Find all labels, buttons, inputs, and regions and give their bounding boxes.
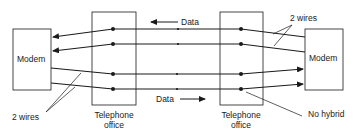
left-office-label: Telephone office bbox=[90, 110, 138, 130]
left-modem-label: Modem bbox=[17, 54, 45, 64]
right-modem-label: Modem bbox=[309, 53, 337, 63]
wire-upper-1-left bbox=[53, 29, 113, 37]
junction-dots bbox=[111, 27, 243, 91]
trunk-ticks bbox=[176, 28, 179, 90]
wire-lower-2-right bbox=[241, 84, 303, 89]
data-top-label: Data bbox=[181, 17, 199, 27]
wire-lower-2-left bbox=[51, 83, 113, 89]
right-wires-label: 2 wires bbox=[290, 13, 317, 23]
wire-upper-2-right bbox=[241, 44, 305, 52]
wire-lower-1-right bbox=[241, 69, 303, 74]
wire-lower-1-left bbox=[51, 68, 113, 74]
wire-upper-2-left bbox=[53, 44, 113, 51]
data-bottom-label: Data bbox=[156, 94, 174, 104]
left-office-box bbox=[92, 12, 136, 105]
wire-upper-1-right bbox=[241, 29, 305, 37]
right-office-label: Telephone office bbox=[217, 110, 265, 130]
no-hybrid-label: No hybrid bbox=[308, 109, 344, 119]
left-wires-label: 2 wires bbox=[12, 112, 39, 122]
wires bbox=[51, 29, 305, 89]
right-office-box bbox=[220, 12, 263, 105]
